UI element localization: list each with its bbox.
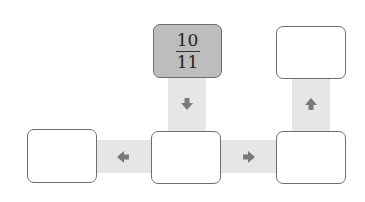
fraction-denominator: 11 [154,53,221,71]
arrow-right-icon [242,150,256,164]
arrow-up-icon [304,97,318,111]
answer-box-top-right[interactable] [276,26,346,79]
start-box: 10 11 [153,24,222,78]
arrow-down-icon [180,97,194,111]
arrow-left-icon [116,150,130,164]
fraction-numerator: 10 [154,31,221,49]
answer-box-bottom-center[interactable] [151,131,221,184]
answer-box-bottom-left[interactable] [27,129,97,183]
fraction: 10 11 [154,31,221,71]
answer-box-bottom-right[interactable] [276,131,346,184]
